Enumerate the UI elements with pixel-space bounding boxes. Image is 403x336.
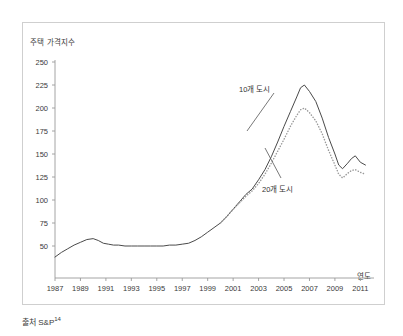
series-line [55,85,365,257]
annotation-leader-lines [247,93,281,178]
tick-marks [52,62,360,281]
axis-lines [55,60,374,278]
series-line [220,108,365,223]
data-series [55,85,365,257]
source-caption: 출처 S&P14 [22,316,61,327]
source-footnote-number: 14 [54,316,61,322]
source-text: 출처 S&P [22,318,54,327]
annotation-leader-line [247,93,274,131]
annotation-label-10-cities: 10개 도시 [239,83,270,94]
chart-figure: 주택 가격지수 연도 2502252001751501251007550 198… [0,0,403,336]
annotation-label-20-cities: 20개 도시 [262,183,293,194]
chart-plot-area [0,0,403,336]
